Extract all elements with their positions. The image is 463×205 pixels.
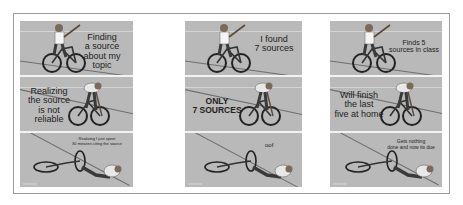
- cyclist-stick-in-wheel-icon: [239, 80, 283, 128]
- caption-line: 7 sources: [252, 44, 296, 53]
- caption-line: about my topic: [73, 52, 131, 71]
- caption-line: done and now its due: [383, 144, 439, 150]
- comic-row-1: Finds 5 sources in class: [330, 21, 442, 75]
- meme-frame: Finding a source about my topic Realizin…: [13, 13, 450, 194]
- watermark: [188, 183, 202, 185]
- watermark: [23, 183, 37, 185]
- comic-row-3: oof: [185, 133, 302, 187]
- caption-line: oof: [265, 142, 273, 148]
- comic-panel-1: Finding a source about my topic Realizin…: [20, 21, 133, 187]
- cyclist-crashed-icon: [203, 147, 301, 183]
- comic-row-2: ONLY 7 SOURCES: [185, 77, 302, 131]
- comic-row-1: I found 7 sources: [185, 21, 302, 75]
- cyclist-crashed-icon: [344, 147, 442, 183]
- comic-row-2: Realizing the source is not reliable: [20, 77, 133, 131]
- cyclist-riding-icon: [207, 23, 253, 75]
- comic-row-2: Will finish the last five at home: [330, 77, 442, 131]
- comic-panel-2: I found 7 sources ONLY 7 SOURCES: [185, 21, 302, 187]
- caption-line: 7 SOURCES: [189, 106, 245, 115]
- comic-row-3: Gets nothing done and now its due: [330, 133, 442, 187]
- caption-line: is not reliable: [24, 106, 74, 125]
- comic-panel-3: Finds 5 sources in class Will finish the…: [330, 21, 442, 187]
- cyclist-stick-in-wheel-icon: [380, 80, 424, 128]
- caption-line: Finds 5: [389, 39, 439, 46]
- comic-row-1: Finding a source about my topic: [20, 21, 133, 75]
- caption-line: 30 minutes citing the source: [67, 142, 127, 147]
- cyclist-stick-in-wheel-icon: [68, 80, 112, 128]
- caption-line: sources in class: [389, 46, 439, 53]
- cyclist-crashed-icon: [32, 147, 130, 183]
- watermark: [333, 183, 347, 185]
- caption-line: five at home: [332, 110, 386, 119]
- comic-row-3: Realizing I just spent 30 minutes citing…: [20, 133, 133, 187]
